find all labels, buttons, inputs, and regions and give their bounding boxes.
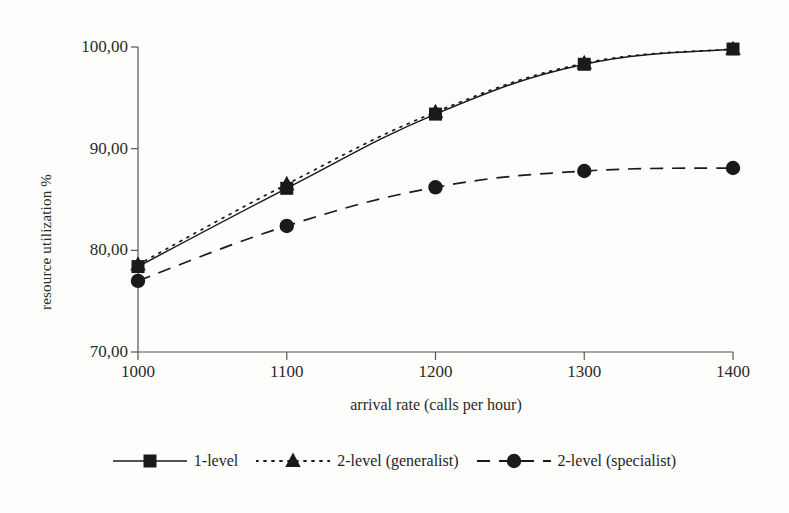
legend-item-label: 2-level (specialist)	[558, 452, 677, 470]
x-axis-title: arrival rate (calls per hour)	[138, 396, 734, 414]
legend-item-triangle[interactable]: 2-level (generalist)	[256, 452, 458, 470]
legend-item-circle[interactable]: 2-level (specialist)	[477, 452, 677, 470]
data-point-marker	[429, 108, 442, 121]
data-point-marker	[280, 182, 293, 195]
axes-group	[131, 47, 733, 360]
series-1-level	[132, 43, 740, 274]
legend-item-label: 1-level	[194, 452, 238, 470]
series-2-level-generalist-	[130, 41, 740, 271]
x-tick-label: 1400	[688, 362, 778, 382]
data-point-marker	[428, 180, 442, 194]
chart-figure: resource utilization % 70,0080,0090,0010…	[0, 0, 789, 513]
data-point-marker	[280, 219, 294, 233]
x-tick-label: 1200	[391, 362, 481, 382]
x-tick-label: 1100	[242, 362, 332, 382]
series-2-level-specialist-	[131, 161, 740, 288]
series-group	[130, 41, 740, 288]
x-tick-label: 1300	[539, 362, 629, 382]
data-point-marker	[578, 58, 591, 71]
data-point-marker	[577, 164, 591, 178]
y-tick-label: 70,00	[42, 343, 128, 360]
square-key-icon	[113, 452, 187, 470]
triangle-key-icon	[256, 452, 330, 470]
data-point-marker	[131, 274, 145, 288]
y-tick-label: 100,00	[42, 38, 128, 55]
data-point-marker	[727, 43, 740, 56]
legend-item-square[interactable]: 1-level	[113, 452, 238, 470]
y-tick-label: 90,00	[42, 140, 128, 157]
x-tick-label: 1000	[93, 362, 183, 382]
y-tick-label: 80,00	[42, 241, 128, 258]
legend-item-label: 2-level (generalist)	[337, 452, 458, 470]
chart-legend: 1-level2-level (generalist)2-level (spec…	[0, 452, 789, 470]
data-point-marker	[726, 161, 740, 175]
circle-key-icon	[477, 452, 551, 470]
data-point-marker	[132, 260, 145, 273]
